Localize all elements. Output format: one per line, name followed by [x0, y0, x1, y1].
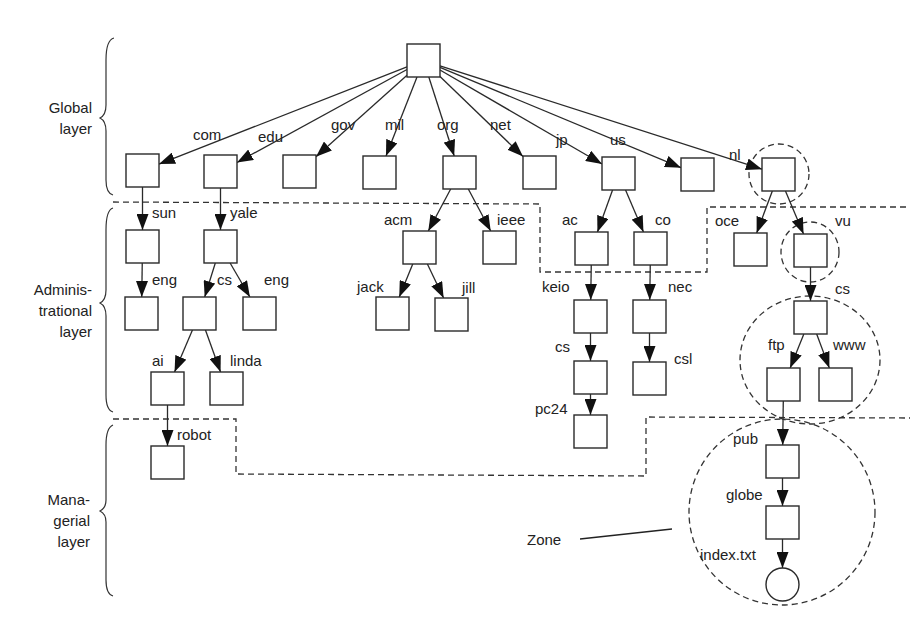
node-co	[634, 232, 667, 265]
layer-label-administrational: Adminis- trational layer	[34, 281, 92, 340]
edge-label-ai: ai	[152, 352, 164, 369]
edge-nl-oce	[757, 191, 773, 233]
edge-jp-ac	[597, 190, 612, 232]
svg-text:Mana-: Mana-	[47, 491, 90, 508]
edge-ftp-pub	[783, 401, 784, 445]
node-ftp	[767, 368, 800, 401]
edge-label-keio-cs: cs	[555, 338, 570, 355]
edge-label-edu: edu	[258, 128, 283, 145]
edge-acm-jill	[427, 264, 443, 298]
edge-label-co: co	[655, 211, 671, 228]
layer-label-global: Global layer	[49, 99, 92, 137]
svg-text:trational: trational	[39, 302, 92, 319]
edge-root-nl	[440, 66, 762, 169]
edge-label-nec: nec	[668, 278, 693, 295]
node-net	[523, 156, 556, 189]
node-yale-eng	[243, 297, 276, 330]
edge-nl-vu	[785, 191, 803, 234]
edge-yale-cs-linda	[205, 330, 220, 372]
node-mil	[363, 156, 396, 189]
edge-label-keio: keio	[542, 278, 570, 295]
edge-label-ac: ac	[562, 211, 578, 228]
node-keio	[574, 300, 607, 333]
node-com	[126, 154, 159, 187]
node-sun-eng	[125, 297, 158, 330]
edge-sun-sun-eng	[142, 263, 143, 297]
svg-text:gerial: gerial	[53, 512, 90, 529]
svg-text:layer: layer	[59, 323, 92, 340]
node-gov	[283, 155, 316, 188]
node-ai	[151, 372, 184, 405]
edge-root-us	[440, 67, 681, 167]
edge-label-www: www	[832, 336, 866, 353]
edge-root-com	[159, 67, 407, 164]
edge-yale-yale-eng	[230, 263, 250, 297]
edge-label-mil: mil	[385, 116, 404, 133]
node-www	[819, 368, 852, 401]
edge-label-jp: jp	[555, 131, 568, 148]
zone-callout-line	[580, 529, 672, 539]
node-linda	[210, 372, 243, 405]
node-index	[766, 568, 799, 601]
edge-label-vu-cs: cs	[835, 280, 850, 297]
edge-org-acm	[428, 189, 450, 231]
layer-label-managerial: Mana- gerial layer	[47, 491, 90, 550]
node-globe	[766, 506, 799, 539]
edge-label-yale: yale	[230, 204, 258, 221]
edge-label-net: net	[490, 116, 512, 133]
edge-label-index: index.txt	[700, 546, 757, 563]
edge-label-linda: linda	[230, 352, 262, 369]
node-org	[443, 156, 476, 189]
node-keio-cs	[574, 361, 607, 394]
edge-label-nl: nl	[729, 146, 741, 163]
edge-label-jack: jack	[356, 278, 384, 295]
svg-text:layer: layer	[57, 533, 90, 550]
node-yale	[204, 230, 237, 263]
node-yale-cs	[183, 297, 216, 330]
node-nec	[633, 300, 666, 333]
edge-co-nec	[650, 265, 651, 300]
edge-yale-cs-ai	[175, 330, 193, 372]
edge-label-sun: sun	[152, 204, 176, 221]
edge-label-pc24: pc24	[535, 400, 568, 417]
node-pub	[766, 445, 799, 478]
edge-label-jill: jill	[461, 279, 475, 296]
edge-label-gov: gov	[331, 116, 356, 133]
edge-root-edu	[237, 70, 407, 163]
nodes	[125, 44, 852, 601]
node-us	[681, 158, 714, 191]
node-pc24	[574, 415, 607, 448]
edge-label-sun-eng: eng	[152, 271, 177, 288]
node-vu-cs	[794, 301, 827, 334]
edge-label-globe: globe	[726, 486, 763, 503]
svg-text:Adminis-: Adminis-	[34, 281, 92, 298]
svg-text:layer: layer	[59, 120, 92, 137]
edge-labels: comedugovmilorgnetjpusnlsunyaleengcsenga…	[152, 116, 866, 563]
edge-label-oce: oce	[715, 212, 739, 229]
node-jp	[602, 157, 635, 190]
edge-label-ieee: ieee	[497, 211, 525, 228]
edge-label-pub: pub	[733, 430, 758, 447]
node-robot	[151, 446, 184, 479]
node-ieee	[483, 231, 516, 264]
edge-acm-jack	[399, 264, 413, 297]
edge-org-ieee	[468, 189, 490, 231]
edge-vu-cs-www	[817, 334, 830, 368]
dns-namespace-diagram: Zone Global layer Adminis- trational lay…	[0, 0, 910, 633]
administrational-layer-brace	[100, 208, 113, 412]
edge-label-csl: csl	[674, 350, 692, 367]
zone-label: Zone	[527, 531, 561, 548]
edge-label-robot: robot	[177, 426, 212, 443]
node-root	[407, 44, 440, 77]
edge-ac-keio	[591, 265, 592, 300]
edge-label-com: com	[193, 126, 221, 143]
node-acm	[403, 231, 436, 264]
node-csl	[633, 362, 666, 395]
edge-label-yale-eng: eng	[264, 271, 289, 288]
node-vu	[794, 234, 827, 267]
node-jill	[435, 298, 468, 331]
node-sun	[126, 230, 159, 263]
edge-vu-cs-ftp	[790, 334, 804, 368]
edge-root-jp	[440, 70, 602, 164]
global-layer-brace	[100, 38, 114, 195]
